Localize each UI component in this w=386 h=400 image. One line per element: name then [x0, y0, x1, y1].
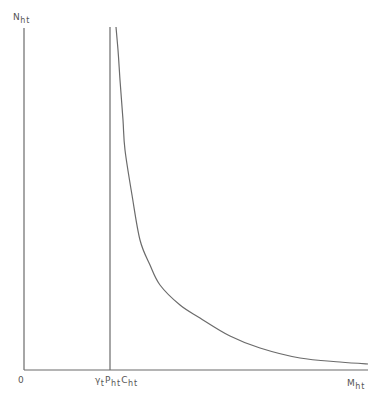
vertical-line-label: γtPhtCht — [95, 375, 138, 388]
hyperbolic-curve — [116, 27, 368, 364]
origin-label: 0 — [18, 375, 24, 385]
p-subscript: ht — [111, 379, 121, 388]
c-subscript: ht — [128, 379, 138, 388]
y-axis-label: Nht — [13, 12, 30, 25]
origin-label-text: 0 — [18, 375, 24, 385]
diagram-canvas — [0, 0, 386, 400]
y-axis-label-subscript: ht — [20, 16, 30, 25]
x-axis-label: Mht — [347, 378, 365, 391]
x-axis-label-subscript: ht — [355, 382, 365, 391]
diagram: Nht 0 γtPhtCht Mht — [0, 0, 386, 400]
c-symbol: C — [121, 375, 128, 385]
